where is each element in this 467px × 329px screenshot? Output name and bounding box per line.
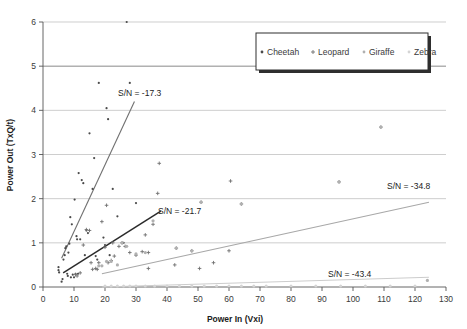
x-tick-label-50: 50: [193, 294, 203, 304]
data-point: [200, 201, 203, 204]
annotation-leopard: S/N = -21.7: [158, 206, 202, 216]
data-point: [240, 202, 243, 205]
data-point: [105, 260, 108, 263]
data-point: [81, 179, 83, 181]
x-tick-label-0: 0: [41, 294, 46, 304]
data-point: [166, 285, 169, 288]
data-point: [240, 285, 243, 288]
data-point: [70, 276, 72, 278]
x-tick-label-120: 120: [408, 294, 422, 304]
data-point: [107, 118, 109, 120]
data-point: [129, 82, 131, 84]
legend-label: Zebra: [414, 47, 436, 57]
data-point: [153, 285, 156, 288]
y-tick-label-6: 6: [31, 17, 36, 27]
data-point: [364, 285, 367, 288]
data-point: [116, 215, 118, 217]
data-point: [100, 264, 103, 267]
annotation-cheetah: S/N = -17.3: [118, 88, 162, 98]
data-point: [339, 285, 342, 288]
data-point: [110, 260, 113, 263]
data-point: [151, 219, 154, 222]
data-point: [265, 285, 268, 288]
data-point: [414, 285, 417, 288]
y-tick-label-5: 5: [31, 61, 36, 71]
data-point: [92, 188, 94, 190]
data-point: [62, 259, 64, 261]
data-point: [61, 278, 63, 280]
data-point: [128, 285, 131, 288]
data-point: [120, 241, 123, 244]
data-point: [78, 172, 80, 174]
data-point: [79, 238, 81, 240]
data-point: [71, 223, 73, 225]
data-point: [252, 285, 255, 288]
data-point: [58, 271, 60, 273]
data-point: [426, 279, 429, 282]
x-axis-title: Power In (Vxi): [207, 314, 263, 324]
data-point: [190, 285, 193, 288]
data-point: [228, 285, 231, 288]
legend-marker-icon: [363, 51, 366, 54]
data-point: [135, 285, 138, 288]
data-point: [66, 273, 68, 275]
legend-label: Leopard: [318, 47, 349, 57]
data-point: [203, 285, 206, 288]
legend-marker-icon: [408, 51, 411, 54]
data-point: [57, 269, 59, 271]
x-tick-label-30: 30: [131, 294, 141, 304]
legend-label: Giraffe: [369, 47, 395, 57]
data-point: [144, 251, 147, 254]
annotation-giraffe: S/N = -34.8: [387, 181, 431, 191]
data-point: [68, 243, 70, 245]
data-point: [116, 285, 119, 288]
x-tick-label-90: 90: [317, 294, 327, 304]
data-point: [126, 21, 128, 23]
data-point: [125, 245, 128, 248]
data-point: [215, 285, 218, 288]
data-point: [104, 285, 107, 288]
scatter-chart: 0102030405060708090100110120130 0123456 …: [0, 0, 467, 329]
x-tick-label-10: 10: [69, 294, 79, 304]
legend[interactable]: CheetahLeopardGiraffeZebra: [256, 33, 436, 73]
data-point: [112, 188, 114, 190]
data-point: [88, 132, 90, 134]
data-point: [337, 180, 340, 183]
x-tick-label-100: 100: [346, 294, 360, 304]
data-point: [75, 235, 77, 237]
y-tick-label-4: 4: [31, 105, 36, 115]
data-point: [134, 252, 137, 255]
y-tick-label-2: 2: [31, 194, 36, 204]
data-point: [97, 264, 100, 267]
data-point: [69, 216, 71, 218]
data-point: [110, 285, 113, 288]
legend-label: Cheetah: [267, 47, 299, 57]
y-tick-label-1: 1: [31, 238, 36, 248]
legend-item-cheetah[interactable]: Cheetah: [261, 47, 300, 57]
data-point: [314, 285, 317, 288]
data-point: [135, 202, 137, 204]
x-tick-label-20: 20: [100, 294, 110, 304]
data-point: [57, 266, 59, 268]
data-point: [175, 247, 178, 250]
x-tick-label-80: 80: [286, 294, 296, 304]
y-tick-label-0: 0: [31, 282, 36, 292]
data-point: [72, 274, 74, 276]
data-point: [122, 285, 125, 288]
data-point: [84, 254, 86, 256]
data-point: [87, 232, 89, 234]
annotation-zebra: S/N = -43.4: [328, 269, 372, 279]
data-point: [96, 259, 98, 261]
data-point: [65, 245, 67, 247]
data-point: [74, 198, 76, 200]
y-tick-label-3: 3: [31, 150, 36, 160]
data-point: [76, 238, 78, 240]
data-point: [98, 82, 100, 84]
data-point: [67, 251, 69, 253]
data-point: [61, 281, 63, 283]
data-point: [379, 126, 382, 129]
data-point: [190, 249, 193, 252]
x-tick-label-40: 40: [162, 294, 172, 304]
data-point: [102, 236, 104, 238]
x-tick-label-70: 70: [255, 294, 265, 304]
